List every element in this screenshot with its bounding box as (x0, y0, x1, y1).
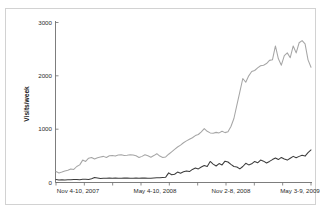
series-line-lower-series (56, 150, 311, 180)
x-tick-label-3: May 3-9, 2009 (280, 187, 320, 194)
x-tick-label-0: Nov 4-10, 2007 (57, 187, 100, 194)
data-series-group (56, 41, 311, 180)
chart-figure: Visits/week 0 1000 2000 3000 Nov 4-10, 2… (0, 0, 328, 223)
x-axis-labels: Nov 4-10, 2007 May 4-10, 2008 Nov 2-8, 2… (57, 187, 320, 194)
series-line-upper-series (56, 41, 311, 173)
y-tick-label-3000: 3000 (38, 19, 52, 26)
x-tick-label-1: May 4-10, 2008 (134, 187, 178, 194)
y-axis-title: Visits/week (23, 86, 30, 122)
y-tick-label-1000: 1000 (38, 125, 52, 132)
y-axis-title-text: Visits/week (23, 86, 30, 122)
line-chart-plot: Visits/week 0 1000 2000 3000 Nov 4-10, 2… (0, 0, 328, 223)
y-tick-label-0: 0 (49, 179, 53, 186)
x-tick-label-2: Nov 2-8, 2008 (212, 187, 251, 194)
y-tick-label-2000: 2000 (38, 72, 52, 79)
